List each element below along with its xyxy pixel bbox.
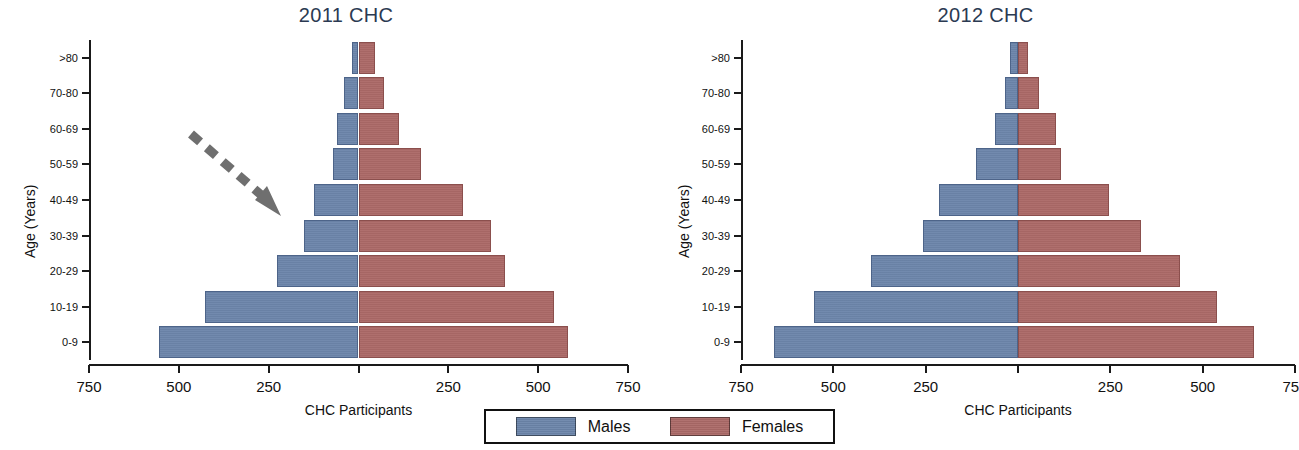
y-axis-tick-label: 10-19 [50,301,78,313]
y-axis-tick [734,128,742,130]
bar-males-30-39 [304,220,359,252]
x-axis-tick-label: 750 [76,378,101,395]
x-axis-tick-label: 750 [728,378,753,395]
bar-males-20-29 [871,255,1018,287]
y-axis-tick [82,57,90,59]
bar-males->80 [1010,42,1018,74]
x-axis-tick [537,365,539,373]
bar-females-0-9 [1018,326,1254,358]
y-axis-tick-label: 50-59 [50,158,78,170]
y-axis-tick [82,199,90,201]
bar-females-10-19 [1018,291,1217,323]
y-axis-tick [82,163,90,165]
y-axis-tick-label: 30-39 [702,230,730,242]
legend-label-females: Females [742,418,803,436]
panel-title-2012: 2012 CHC [650,4,1299,27]
bar-males-70-80 [1005,77,1018,109]
x-axis-tick-label: 250 [913,378,938,395]
bar-females-20-29 [1018,255,1180,287]
bar-females->80 [1018,42,1028,74]
bar-females-30-39 [359,220,491,252]
bar-females-50-59 [1018,148,1061,180]
panel-2011-chc: 2011 CHC CHC Participants 75050025025050… [0,0,650,400]
y-axis-tick [734,341,742,343]
bar-males-0-9 [159,326,358,358]
y-axis-tick-label: 20-29 [50,265,78,277]
x-axis-tick-label: 500 [526,378,551,395]
x-axis-tick [1017,365,1019,373]
y-axis-tick-label: >80 [59,52,78,64]
bar-females-0-9 [359,326,568,358]
bar-males-70-80 [344,77,358,109]
bar-males-40-49 [939,184,1018,216]
bar-males-10-19 [814,291,1018,323]
y-axis-tick [734,163,742,165]
y-axis-tick-label: 60-69 [50,123,78,135]
legend-label-males: Males [588,418,631,436]
y-axis-tick [734,57,742,59]
y-axis-tick-label: 50-59 [702,158,730,170]
x-axis-tick-label: 250 [436,378,461,395]
y-axis-title-2012: Age (Years) [676,185,692,258]
plot-area-2011: CHC Participants 7505002502505007500-910… [89,40,628,360]
y-axis-tick [82,341,90,343]
x-axis-tick-label: 500 [166,378,191,395]
bar-females-30-39 [1018,220,1141,252]
y-axis-tick [82,270,90,272]
legend-swatch-females-icon [670,417,730,436]
x-axis-tick [268,365,270,373]
bar-males-30-39 [923,220,1018,252]
y-axis-tick [734,92,742,94]
bar-males-40-49 [314,184,359,216]
y-axis-tick-label: 0-9 [62,336,78,348]
x-axis-tick [627,365,629,373]
legend: Males Females [484,409,835,444]
x-axis-tick [178,365,180,373]
y-axis-tick [734,270,742,272]
y-axis-tick [734,306,742,308]
y-axis-tick-label: 70-80 [50,87,78,99]
bar-males-50-59 [333,148,359,180]
bar-males-0-9 [774,326,1018,358]
bar-males-10-19 [205,291,358,323]
y-axis-tick-label: 20-29 [702,265,730,277]
x-axis-tick-label: 500 [821,378,846,395]
y-axis-tick-label: 30-39 [50,230,78,242]
plot-area-2012: CHC Participants 7505002502505007500-910… [741,40,1295,360]
bar-females-40-49 [359,184,463,216]
y-axis-tick-label: >80 [711,52,730,64]
x-axis-tick [1109,365,1111,373]
bar-females->80 [359,42,375,74]
legend-entry-females: Females [670,417,803,436]
bar-males-60-69 [995,113,1018,145]
bar-males-50-59 [976,148,1018,180]
bar-males-60-69 [337,113,359,145]
figure-canvas: 2011 CHC CHC Participants 75050025025050… [0,0,1299,450]
x-axis-tick-label: 750 [615,378,640,395]
x-axis-tick [925,365,927,373]
x-axis-tick [740,365,742,373]
bar-females-60-69 [1018,113,1056,145]
y-axis-tick-label: 10-19 [702,301,730,313]
bar-males-20-29 [277,255,359,287]
bars-container-2012 [741,40,1295,360]
y-axis-tick-label: 40-49 [50,194,78,206]
bar-females-60-69 [359,113,400,145]
y-axis-tick [82,92,90,94]
x-axis-tick-label: 750 [1282,378,1299,395]
x-axis-tick-label: 250 [1098,378,1123,395]
x-axis-tick-label: 250 [256,378,281,395]
y-axis-tick-label: 40-49 [702,194,730,206]
y-axis-tick [82,235,90,237]
y-axis-tick [82,306,90,308]
bars-container-2011 [89,40,628,360]
y-axis-title-2011: Age (Years) [22,185,38,258]
y-axis-tick-label: 0-9 [714,336,730,348]
bar-females-70-80 [1018,77,1039,109]
bar-females-10-19 [359,291,554,323]
x-axis-tick [832,365,834,373]
bar-females-50-59 [359,148,422,180]
panel-title-2011: 2011 CHC [0,4,650,27]
x-axis-tick [88,365,90,373]
bar-females-20-29 [359,255,505,287]
